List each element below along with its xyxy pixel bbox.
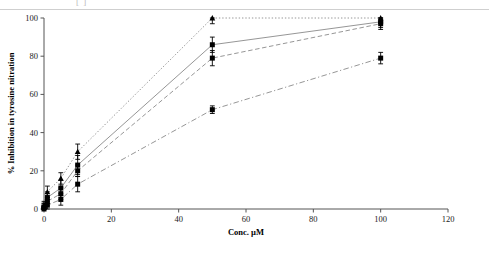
chart-canvas: 020406080100120020406080100Conc. µM% Inh… (0, 0, 489, 256)
x-tick-label: 60 (242, 214, 251, 224)
marker-square (378, 21, 383, 26)
x-axis-title: Conc. µM (228, 227, 264, 237)
axes-group (41, 18, 449, 213)
x-tick-label: 40 (174, 214, 183, 224)
x-tick-label: 100 (374, 214, 387, 224)
axis-labels-group: 020406080100120020406080100Conc. µM% Inh… (6, 13, 454, 237)
data-point (210, 106, 215, 114)
chart-figure: [ ] 020406080100120020406080100Conc. µM%… (0, 0, 489, 256)
x-tick-label: 0 (42, 214, 46, 224)
marker-square (378, 56, 383, 61)
x-tick-label: 80 (309, 214, 318, 224)
series-line-4 (44, 58, 381, 209)
x-tick-label: 20 (107, 214, 116, 224)
data-points-group (41, 15, 383, 211)
data-point (75, 177, 80, 192)
marker-square (210, 56, 215, 61)
marker-square (75, 182, 80, 187)
y-tick-label: 0 (34, 204, 38, 214)
marker-square (58, 197, 63, 202)
y-axis-title: % Inhibition in tyrosine nitration (6, 52, 16, 174)
marker-square (210, 107, 215, 112)
data-point (378, 52, 383, 63)
y-tick-label: 80 (30, 51, 39, 61)
marker-square (45, 203, 50, 208)
y-tick-label: 60 (30, 89, 39, 99)
marker-square (210, 42, 215, 47)
marker-square (75, 168, 80, 173)
y-tick-label: 100 (25, 13, 38, 23)
data-point (209, 15, 215, 24)
x-tick-label: 120 (442, 214, 455, 224)
y-tick-label: 20 (30, 166, 39, 176)
y-tick-label: 40 (30, 128, 39, 138)
